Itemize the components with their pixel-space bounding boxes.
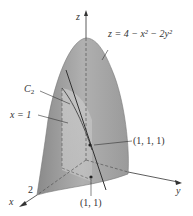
point-1-1 (89, 175, 92, 178)
plane-label: x = 1 (9, 109, 31, 120)
curve-label: C2 (24, 83, 35, 96)
equation-label: z = 4 − x² − 2y² (107, 28, 173, 39)
paraboloid-diagram: z y x 2 z = 4 − x² − 2y² C2 x = 1 (1, 1,… (0, 0, 193, 216)
point3d-label: (1, 1, 1) (133, 135, 165, 147)
x-axis-arrow (19, 201, 27, 207)
z-axis-label: z (75, 11, 80, 22)
x-axis-label: x (8, 196, 14, 207)
z-axis-arrow (84, 10, 88, 16)
x-tick-2: 2 (28, 184, 33, 195)
point-1-1-1 (88, 143, 91, 146)
y-axis (128, 172, 178, 182)
y-axis-label: y (175, 185, 181, 196)
point2d-label: (1, 1) (80, 197, 102, 209)
